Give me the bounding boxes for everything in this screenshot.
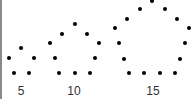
dot [113, 26, 117, 30]
figure-pentagon-5: 5 [7, 46, 36, 98]
pentagonal-number-diagram: 5 10 15 [0, 0, 193, 99]
dot [57, 71, 61, 75]
dot [32, 56, 36, 60]
dot [138, 7, 142, 11]
dot [158, 71, 162, 75]
dot [7, 56, 11, 60]
dot [73, 71, 77, 75]
dot-figures: 5 10 15 [0, 0, 193, 99]
figure-label: 5 [18, 84, 25, 98]
dot [88, 71, 92, 75]
dot [85, 32, 89, 36]
dot [142, 71, 146, 75]
dot [178, 57, 182, 61]
dot [73, 22, 77, 26]
figure-pentagon-10: 10 [48, 22, 101, 98]
figure-label: 15 [146, 84, 160, 98]
dot [183, 41, 187, 45]
dot [163, 7, 167, 11]
dot [60, 32, 64, 36]
dot [97, 41, 101, 45]
left-border [0, 0, 2, 99]
dot [12, 71, 16, 75]
dot [175, 17, 179, 21]
dot [117, 41, 121, 45]
dot [173, 71, 177, 75]
figure-pentagon-15: 15 [113, 0, 191, 98]
dot [93, 56, 97, 60]
dot [53, 56, 57, 60]
dot [122, 57, 126, 61]
dot [125, 17, 129, 21]
dot [150, 0, 154, 3]
dot [187, 26, 191, 30]
dot [19, 46, 23, 50]
dot [48, 41, 52, 45]
dot [127, 71, 131, 75]
figure-label: 10 [67, 84, 81, 98]
dot [27, 71, 31, 75]
